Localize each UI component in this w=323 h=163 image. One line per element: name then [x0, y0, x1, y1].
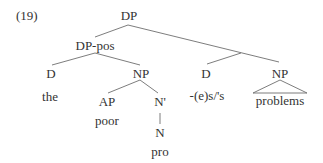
word-possessive-suffix: -(e)s/'s: [190, 89, 225, 102]
branch-dp-to-right: [128, 25, 279, 62]
branch-np-to-ap: [108, 80, 140, 93]
branch-to-right-d: [207, 53, 241, 64]
word-pro: pro: [151, 145, 168, 158]
branch-dppos-to-d: [52, 53, 95, 65]
node-nbar: N': [154, 95, 166, 108]
node-n: N: [155, 126, 164, 139]
branch-dp-to-dppos: [95, 25, 128, 37]
branch-np-to-nbar: [140, 80, 158, 93]
node-ap: AP: [99, 95, 116, 108]
node-np-left: NP: [133, 67, 150, 80]
example-number: (19): [16, 9, 38, 22]
np-triangle: [253, 80, 307, 93]
node-dp-pos: DP-pos: [75, 39, 114, 52]
node-np-right: NP: [272, 67, 289, 80]
word-poor: poor: [95, 114, 119, 127]
node-d-left: D: [46, 67, 55, 80]
word-the: the: [42, 90, 58, 103]
branch-dppos-to-np: [95, 53, 140, 65]
node-dp-root: DP: [121, 9, 138, 22]
node-d-right: D: [201, 67, 210, 80]
syntax-tree: (19) DP DP-pos D NP the AP poor N' N pro…: [0, 0, 323, 163]
word-problems: problems: [256, 94, 304, 107]
